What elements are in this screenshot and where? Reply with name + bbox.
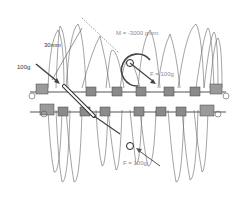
bracket (176, 107, 186, 116)
lower-archwire (30, 104, 226, 117)
upper-force-label: F = 100g (150, 71, 174, 78)
molar-tube (36, 84, 48, 94)
bracket (86, 87, 96, 96)
center-of-resistance-lower (127, 143, 134, 150)
bracket (112, 87, 122, 96)
bracket (136, 87, 146, 96)
length-label: 30mm (44, 42, 61, 49)
braces-force-diagram: 30mm 100g M = -3000 gmm F = 100g F = 100… (0, 0, 252, 202)
lower-force-label: F = 100g (123, 160, 147, 167)
bracket (156, 107, 166, 116)
molar-tube (210, 84, 222, 94)
applied-force-label: 100g (17, 64, 30, 71)
upper-archwire (29, 84, 229, 99)
bracket (190, 87, 200, 96)
molar-tube (200, 105, 214, 116)
bracket (164, 87, 174, 96)
bracket (58, 107, 68, 116)
bracket (134, 107, 144, 116)
bracket (100, 107, 110, 116)
moment-label: M = -3000 gmm (116, 30, 158, 37)
